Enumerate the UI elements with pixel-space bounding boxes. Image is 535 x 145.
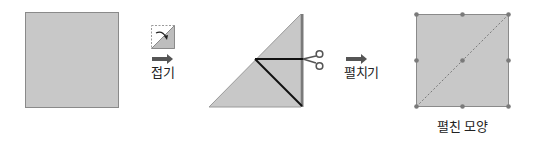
folding-diagram: 접기 펼치기 펼친 모양 — [0, 0, 535, 145]
scissors-icon — [303, 51, 323, 70]
result-label: 펼친 모양 — [437, 120, 488, 133]
original-square — [26, 13, 119, 108]
unfolded-square — [414, 12, 511, 109]
fold-diagonal-icon — [152, 26, 175, 49]
unfold-label: 펼치기 — [344, 66, 379, 79]
fold-arrow-icon — [152, 54, 173, 64]
folded-triangle — [209, 14, 304, 107]
fold-label: 접기 — [151, 66, 174, 79]
unfold-arrow-icon — [346, 54, 367, 64]
